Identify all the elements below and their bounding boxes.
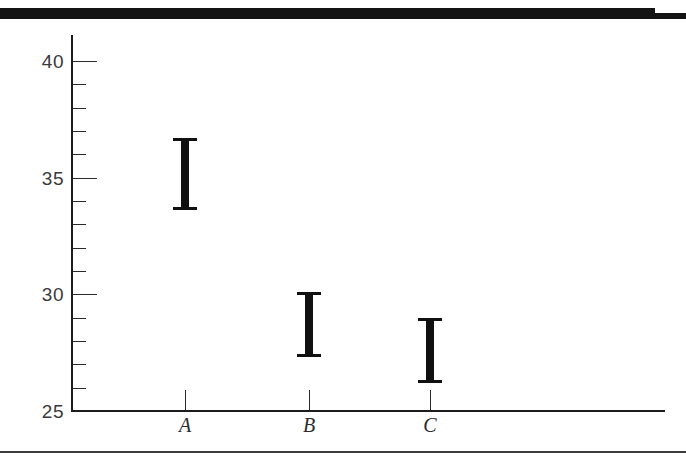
x-axis-tick — [185, 390, 186, 410]
error-bar-stem — [181, 138, 189, 210]
y-axis-minor-tick — [73, 108, 86, 109]
error-bar-c — [410, 318, 450, 383]
error-bar-upper-cap — [297, 292, 321, 295]
y-axis-major-tick — [73, 61, 97, 62]
y-axis-minor-tick — [73, 224, 86, 225]
x-axis-tick-label: C — [410, 414, 450, 437]
error-bar-b — [289, 292, 329, 357]
y-axis-tick-label-text: 35 — [20, 168, 64, 190]
error-bar-stem — [305, 292, 313, 357]
error-bar-lower-cap — [297, 354, 321, 357]
error-bar-a — [165, 138, 205, 210]
y-axis-minor-tick — [73, 154, 86, 155]
error-bar-upper-cap — [173, 138, 197, 141]
y-axis-minor-tick — [73, 364, 86, 365]
error-bar-lower-cap — [418, 380, 442, 383]
error-bar-stem — [426, 318, 434, 383]
y-axis-minor-tick — [73, 84, 86, 85]
y-axis-minor-tick — [73, 388, 86, 389]
figure-canvas: 25303540 ABC — [0, 0, 686, 464]
y-axis-major-tick — [73, 178, 97, 179]
y-axis-minor-tick — [73, 318, 86, 319]
x-axis-tick-label: A — [165, 414, 205, 437]
error-bar-upper-cap — [418, 318, 442, 321]
x-axis-tick-label: B — [289, 414, 329, 437]
y-axis-major-tick — [73, 294, 97, 295]
y-axis-tick-label-text: 25 — [20, 401, 64, 423]
x-axis-line — [71, 410, 665, 412]
y-axis-minor-tick — [73, 341, 86, 342]
x-axis-tick — [430, 390, 431, 410]
y-axis-minor-tick — [73, 271, 86, 272]
y-axis-minor-tick — [73, 201, 86, 202]
y-axis-minor-tick — [73, 131, 86, 132]
y-axis-tick-label-text: 30 — [20, 284, 64, 306]
x-axis-tick — [309, 390, 310, 410]
y-axis-minor-tick — [73, 248, 86, 249]
error-bar-lower-cap — [173, 207, 197, 210]
plot-area: 25303540 ABC — [0, 0, 686, 464]
y-axis-tick-label-text: 40 — [20, 51, 64, 73]
bottom-horizontal-rule — [0, 451, 686, 453]
